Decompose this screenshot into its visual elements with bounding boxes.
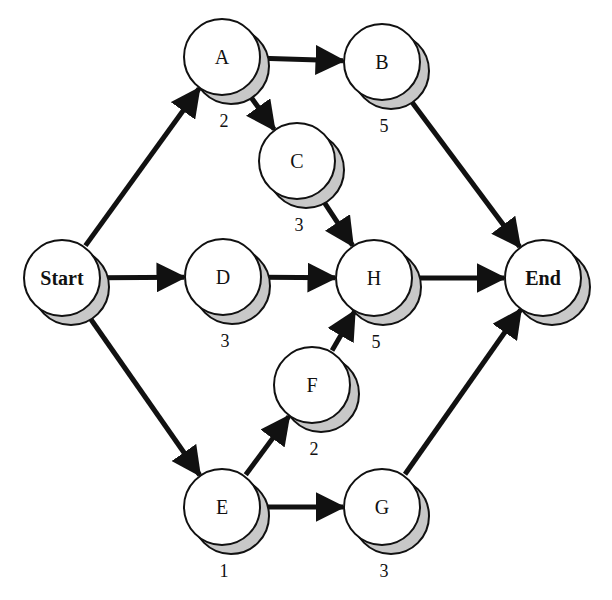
node-g: G3 <box>344 469 429 581</box>
node-h: H5 <box>336 240 421 352</box>
node-label: End <box>525 267 561 289</box>
duration-label: 3 <box>295 215 304 235</box>
duration-label: 5 <box>372 332 381 352</box>
edge-f-to-h <box>332 312 354 351</box>
node-label: G <box>375 496 389 518</box>
duration-label: 1 <box>220 561 229 581</box>
node-a: A2 <box>184 19 269 131</box>
duration-label: 3 <box>380 561 389 581</box>
node-label: A <box>215 46 230 68</box>
node-label: H <box>367 267 381 289</box>
node-label: D <box>216 266 230 288</box>
nodes-layer: StartA2B5C3D3H5EndF2E1G3 <box>24 19 590 581</box>
network-svg: StartA2B5C3D3H5EndF2E1G3 <box>0 0 612 600</box>
activity-network-diagram: StartA2B5C3D3H5EndF2E1G3 <box>0 0 612 600</box>
duration-label: 5 <box>380 116 389 136</box>
node-e: E1 <box>184 469 269 581</box>
edge-a-to-b <box>262 58 343 61</box>
duration-label: 3 <box>221 331 230 351</box>
node-b: B5 <box>344 24 429 136</box>
edge-g-to-end <box>405 310 521 474</box>
node-d: D3 <box>185 239 270 351</box>
node-label: E <box>216 496 228 518</box>
edge-b-to-end <box>406 94 520 247</box>
duration-label: 2 <box>220 111 229 131</box>
node-f: F2 <box>274 347 359 459</box>
edge-start-to-e <box>85 311 200 475</box>
node-label: B <box>375 51 388 73</box>
node-label: Start <box>40 267 84 289</box>
duration-label: 2 <box>310 439 319 459</box>
node-label: F <box>306 374 317 396</box>
node-start: Start <box>24 240 109 325</box>
edge-start-to-a <box>85 89 199 246</box>
edge-e-to-f <box>246 416 289 474</box>
edge-start-to-d <box>102 277 184 278</box>
node-c: C3 <box>259 123 344 235</box>
node-label: C <box>290 150 303 172</box>
